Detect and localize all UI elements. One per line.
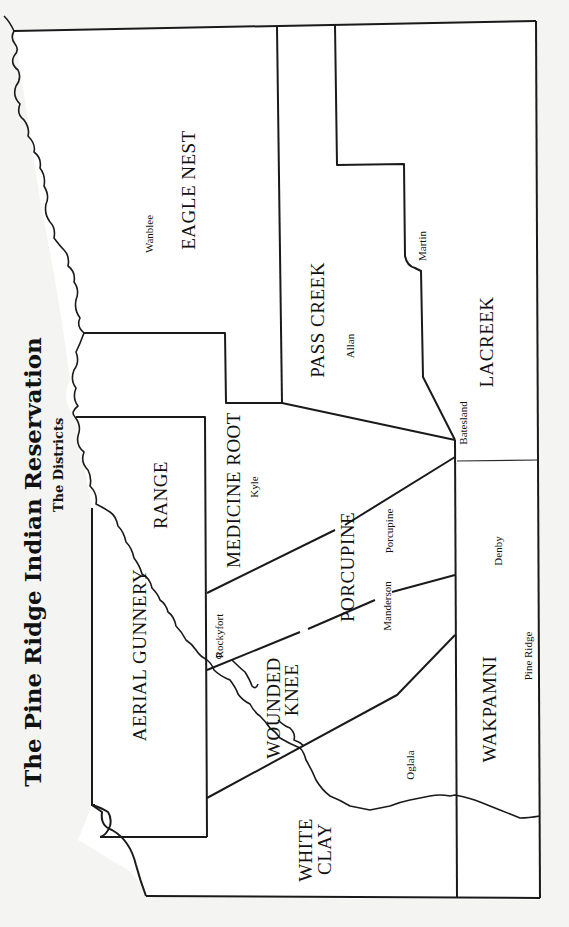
town-kyle: Kyle <box>248 476 260 498</box>
map-title: The Pine Ridge Indian Reservation <box>19 337 46 787</box>
reservation-map: The Pine Ridge Indian Reservation The Di… <box>0 0 569 927</box>
district-medicine-root: MEDICINE ROOT <box>223 412 244 568</box>
district-clay: CLAY <box>314 823 335 875</box>
town-batesland: Batesland <box>457 401 469 445</box>
district-porcupine: PORCUPINE <box>337 512 358 622</box>
map-subtitle: The Districts <box>51 418 66 513</box>
town-denby: Denby <box>492 536 504 566</box>
district-range: RANGE <box>150 461 171 529</box>
town-martin: Martin <box>416 231 428 261</box>
town-allan: Allan <box>344 333 356 358</box>
district-lacreek: LACREEK <box>476 296 497 387</box>
district-wakpamni: WAKPAMNI <box>479 656 500 763</box>
town-oglala: Oglala <box>404 750 416 779</box>
town-rockyfort: Rockyfort <box>213 614 225 659</box>
district-knee: KNEE <box>281 664 302 717</box>
district-eagle-nest: EAGLE NEST <box>178 130 199 250</box>
town-porcupine: Porcupine <box>383 509 395 554</box>
town-manderson: Manderson <box>381 581 393 631</box>
district-white: WHITE <box>295 818 316 882</box>
district-aerial-gunnery: AERIAL GUNNERY <box>129 569 150 742</box>
town-wanblee: Wanblee <box>143 215 155 253</box>
district-pass-creek: PASS CREEK <box>307 262 328 378</box>
town-pine-ridge: Pine Ridge <box>522 632 534 681</box>
